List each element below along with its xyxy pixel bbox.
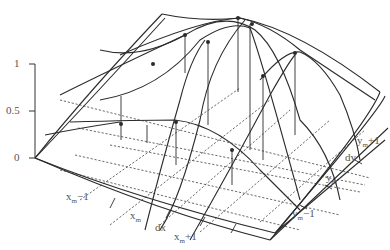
x-label-xm-minus-1: xm−1 bbox=[66, 191, 89, 205]
y-label-sub: m bbox=[332, 178, 337, 186]
x-label-sub: m bbox=[136, 216, 141, 224]
y-label-ym: ym bbox=[326, 172, 337, 186]
x-label-xm-plus-1: xm+1 bbox=[174, 231, 197, 245]
z-tick-1: 1 bbox=[14, 58, 20, 69]
x-label-suffix: +1 bbox=[185, 230, 197, 242]
y-label-ym-plus-1: ym+1 bbox=[357, 135, 380, 149]
surface-diagram: 1 0.5 0 xm−1 xm dx xm+1 ym+1 dy ym ym−1 bbox=[0, 0, 390, 250]
x-label-xm: xm bbox=[130, 210, 141, 224]
y-label-suffix: +1 bbox=[368, 134, 380, 146]
z-tick-0.5: 0.5 bbox=[6, 105, 20, 116]
z-tick-0: 0 bbox=[14, 152, 20, 163]
z-axis bbox=[29, 64, 35, 158]
surface-curves bbox=[35, 14, 385, 240]
y-label-ym-minus-1: ym−1 bbox=[292, 208, 315, 222]
x-label-dx: dx bbox=[155, 222, 166, 233]
base-grid bbox=[60, 88, 370, 232]
x-label-suffix: −1 bbox=[77, 190, 89, 202]
y-label-dy: dy bbox=[345, 152, 356, 163]
wireframe-surface bbox=[0, 0, 390, 250]
y-label-suffix: −1 bbox=[303, 207, 315, 219]
